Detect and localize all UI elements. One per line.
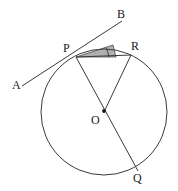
geometry-figure: A B P R O Q xyxy=(0,0,178,191)
point-label-B: B xyxy=(117,8,125,20)
point-label-Q: Q xyxy=(133,172,142,184)
center-point-dot xyxy=(102,109,106,113)
diameter-PQ xyxy=(76,57,138,171)
point-label-R: R xyxy=(131,40,139,52)
radius-RO xyxy=(104,55,131,112)
point-label-O: O xyxy=(91,114,100,126)
point-label-P: P xyxy=(63,42,70,54)
geometry-canvas xyxy=(0,0,178,191)
point-label-A: A xyxy=(12,79,21,91)
